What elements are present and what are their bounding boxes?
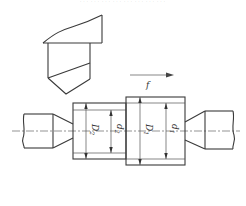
feed-direction: f xyxy=(130,73,174,91)
tool-cutting-edge xyxy=(48,63,90,78)
dim-d2-arrow-top xyxy=(109,110,112,116)
feed-label: f xyxy=(145,80,151,90)
workpiece-left-section: D2 d2 xyxy=(73,103,126,159)
dim-D2-label: D2 xyxy=(89,123,100,135)
right-center-break xyxy=(233,111,235,149)
dim-d1-arrow-bottom xyxy=(164,153,167,159)
cutting-tool xyxy=(43,15,102,94)
dim-D2-arrow-top xyxy=(84,103,87,109)
right-cone-top xyxy=(185,111,205,122)
left-cone-bottom xyxy=(53,138,73,148)
dim-d1-arrow-top xyxy=(164,103,167,109)
tool-break-curve xyxy=(43,15,102,43)
dim-D1-arrow-bottom xyxy=(138,159,141,165)
dim-D2-arrow-bottom xyxy=(84,153,87,159)
dim-d1-label: d1 xyxy=(169,124,180,134)
dim-d2-arrow-bottom xyxy=(109,147,112,153)
dim-d2-label: d2 xyxy=(114,124,125,134)
dim-D1-label: D1 xyxy=(143,123,154,135)
turning-diagram: f D2 d2 xyxy=(0,0,246,206)
dim-D1-arrow-top xyxy=(138,97,141,103)
right-center xyxy=(185,111,235,149)
right-cone-bottom xyxy=(185,140,205,149)
left-cone-top xyxy=(53,114,73,124)
feed-arrow-head xyxy=(166,73,174,78)
tool-tip xyxy=(48,78,90,94)
